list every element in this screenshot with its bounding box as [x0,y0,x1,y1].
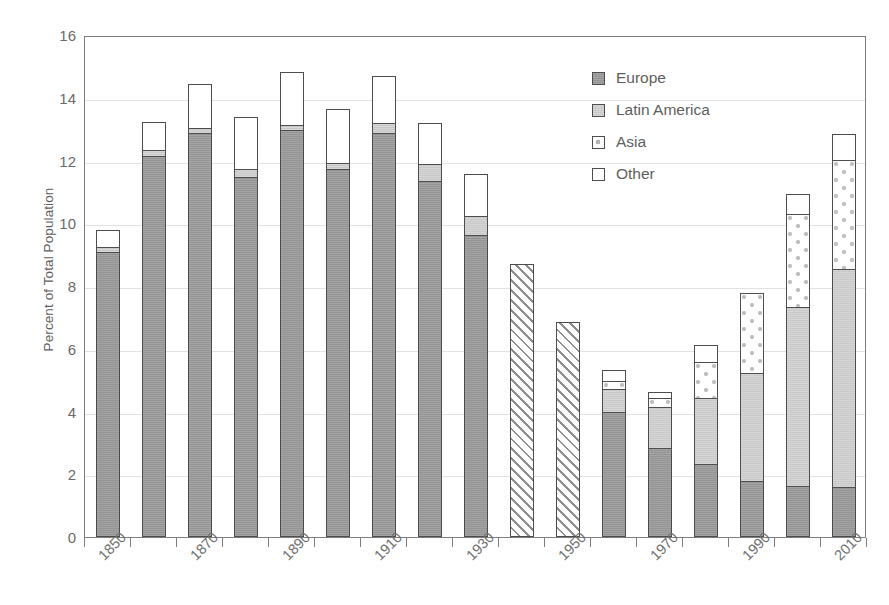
bar-segment-other-1920 [418,123,442,165]
legend-swatch-icon [592,168,605,181]
bar-segment-europe-1870 [188,133,212,537]
bar-segment-latin-america-2000 [786,307,810,487]
y-tick-label: 10 [42,216,76,231]
bar-segment-europe-1910 [372,133,396,537]
legend-item-europe[interactable]: Europe [592,62,710,94]
bar-segment-other-1870 [188,84,212,129]
bar-segment-other-1880 [234,117,258,170]
bar-1890[interactable] [280,73,304,537]
bar-1940[interactable] [510,264,534,537]
y-tick-label: 4 [42,405,76,420]
bar-1850[interactable] [96,231,120,537]
x-tick [774,538,775,547]
bar-segment-europe-1850 [96,252,120,537]
bar-1870[interactable] [188,85,212,537]
bar-segment-asia-1970 [648,398,672,408]
legend-item-other[interactable]: Other [592,158,710,190]
bar-segment-latin-america-1920 [418,164,442,182]
bar-segment-europe-2000 [786,486,810,537]
x-tick [820,538,821,547]
bar-segment-europe-1970 [648,448,672,537]
bar-segment-total-1950 [556,322,580,537]
bar-1970[interactable] [648,393,672,537]
bar-1900[interactable] [326,110,350,537]
bar-segment-other-1890 [280,72,304,126]
x-tick [498,538,499,547]
bar-segment-asia-1980 [694,362,718,399]
bar-1920[interactable] [418,124,442,537]
x-tick [728,538,729,547]
bar-segment-other-1910 [372,76,396,124]
bar-segment-europe-1960 [602,412,626,537]
bar-segment-other-1970 [648,392,672,399]
plot-area [84,36,866,538]
bar-1880[interactable] [234,118,258,537]
bar-segment-latin-america-2010 [832,269,856,488]
x-tick [314,538,315,547]
bar-segment-asia-1960 [602,381,626,390]
bar-segment-europe-1880 [234,177,258,537]
x-tick [682,538,683,547]
x-tick [406,538,407,547]
bar-2010[interactable] [832,135,856,537]
x-tick [130,538,131,547]
y-tick-label: 16 [42,28,76,43]
x-tick [636,538,637,547]
legend-item-label: Other [616,165,655,183]
bar-segment-latin-america-1990 [740,373,764,482]
bar-1990[interactable] [740,294,764,537]
y-tick-label: 0 [42,530,76,545]
bar-1860[interactable] [142,123,166,537]
legend-swatch-icon [592,72,605,85]
bar-segment-europe-1860 [142,156,166,537]
legend-swatch-icon [592,104,605,117]
bar-segment-europe-1930 [464,235,488,537]
bar-segment-latin-america-1980 [694,398,718,465]
bar-segment-europe-1990 [740,481,764,537]
legend-item-latin-america[interactable]: Latin America [592,94,710,126]
y-tick-label: 14 [42,91,76,106]
chart-container: Percent of Total Population 161412108642… [0,0,889,605]
chart-legend: EuropeLatin AmericaAsiaOther [592,62,710,190]
bar-segment-asia-2000 [786,214,810,308]
y-tick-label: 8 [42,279,76,294]
x-tick [84,538,85,547]
bar-segment-other-1850 [96,230,120,248]
bar-1930[interactable] [464,175,488,537]
x-tick [544,538,545,547]
bar-1960[interactable] [602,371,626,537]
bar-1950[interactable] [556,322,580,537]
bar-1980[interactable] [694,346,718,537]
y-tick-label: 2 [42,467,76,482]
bar-segment-total-1940 [510,264,534,537]
bar-2000[interactable] [786,195,810,537]
bar-segment-asia-1990 [740,293,764,374]
bar-segment-latin-america-1910 [372,123,396,133]
bar-segment-latin-america-1970 [648,407,672,449]
legend-item-label: Europe [616,69,666,87]
bar-segment-other-1930 [464,174,488,217]
bar-segment-other-1960 [602,370,626,382]
bar-segment-latin-america-1860 [142,150,166,157]
bar-segment-latin-america-1900 [326,163,350,170]
bar-1910[interactable] [372,77,396,537]
legend-item-label: Latin America [616,101,710,119]
bar-segment-latin-america-1930 [464,216,488,236]
legend-item-asia[interactable]: Asia [592,126,710,158]
bar-segment-other-1900 [326,109,350,163]
bar-segment-other-2010 [832,134,856,160]
y-tick-label: 6 [42,342,76,357]
x-tick [590,538,591,547]
bar-segment-europe-1900 [326,169,350,537]
bar-segment-europe-1920 [418,181,442,537]
bar-segment-other-1980 [694,345,718,363]
bar-segment-latin-america-1880 [234,169,258,178]
x-tick [866,538,867,547]
bar-segment-latin-america-1960 [602,389,626,414]
x-tick [222,538,223,547]
x-tick [452,538,453,547]
x-tick [268,538,269,547]
x-tick [176,538,177,547]
bar-segment-europe-1980 [694,464,718,537]
bar-segment-europe-1890 [280,130,304,537]
